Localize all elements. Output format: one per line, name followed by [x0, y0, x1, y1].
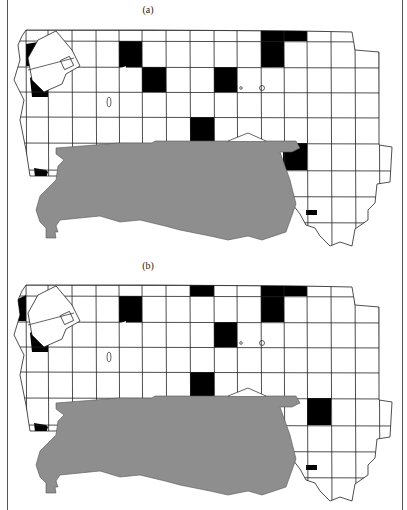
panel-label-b: (b)	[128, 260, 168, 271]
selected-cell	[190, 372, 214, 398]
selected-cell	[142, 67, 166, 92]
island	[107, 352, 111, 362]
lake-area	[36, 141, 300, 240]
map-b	[0, 255, 407, 505]
lake-area	[36, 396, 300, 495]
island	[107, 97, 111, 107]
selected-cell	[261, 296, 284, 322]
selected-cell	[119, 296, 142, 322]
map-panel-b: (b)	[0, 255, 407, 505]
selected-cell	[119, 41, 142, 67]
selected-cell	[214, 67, 237, 92]
selected-cell	[214, 322, 237, 347]
map-panel-a: (a)	[0, 0, 407, 250]
selected-cell	[190, 117, 214, 143]
selected-cell	[190, 285, 214, 296]
panel-label-a: (a)	[128, 4, 168, 15]
selected-cell	[307, 398, 331, 425]
selected-cell	[15, 295, 26, 321]
selected-cell	[261, 41, 284, 67]
map-a	[0, 0, 407, 250]
